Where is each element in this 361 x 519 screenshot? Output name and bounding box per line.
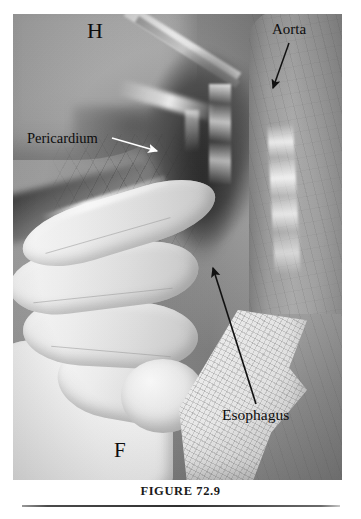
caption-rule bbox=[22, 505, 340, 507]
label-heart: H bbox=[87, 20, 103, 42]
surgical-photograph bbox=[13, 14, 342, 480]
figure-caption: FIGURE 72.9 bbox=[0, 484, 361, 499]
figure-page: H F Aorta Pericardium Esophagus FIGURE 7… bbox=[0, 0, 361, 519]
label-esophagus: Esophagus bbox=[222, 407, 289, 423]
label-finger: F bbox=[114, 440, 126, 461]
label-pericardium: Pericardium bbox=[27, 131, 98, 146]
label-aorta: Aorta bbox=[272, 22, 306, 37]
esophagus-highlight-upper bbox=[209, 84, 231, 184]
